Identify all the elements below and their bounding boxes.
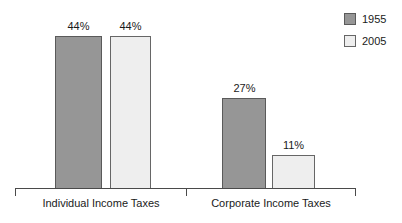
legend-label-1955: 1955 (362, 13, 386, 25)
bar-value-individual-2005: 44% (97, 20, 164, 32)
bar-individual-1955[interactable] (55, 36, 102, 189)
legend: 1955 2005 (344, 10, 400, 54)
category-label-corporate-income-taxes: Corporate Income Taxes (188, 197, 354, 209)
axis-tick-left (15, 188, 16, 196)
legend-item-1955[interactable]: 1955 (344, 10, 400, 28)
axis-tick-middle (186, 188, 187, 196)
bar-value-corporate-2005: 11% (260, 139, 327, 151)
legend-swatch-1955-icon (344, 13, 356, 25)
bar-value-corporate-1955: 27% (211, 82, 278, 94)
axis-tick-right (355, 188, 356, 196)
legend-swatch-2005-icon (344, 35, 356, 47)
plot-area: 44% 44% 27% 11% Individual Income Taxes … (0, 0, 402, 223)
legend-item-2005[interactable]: 2005 (344, 32, 400, 50)
bar-individual-2005[interactable] (110, 36, 151, 189)
bar-corporate-2005[interactable] (272, 155, 315, 189)
category-label-individual-income-taxes: Individual Income Taxes (18, 197, 184, 209)
bar-chart: 44% 44% 27% 11% Individual Income Taxes … (0, 0, 402, 223)
legend-label-2005: 2005 (362, 35, 386, 47)
